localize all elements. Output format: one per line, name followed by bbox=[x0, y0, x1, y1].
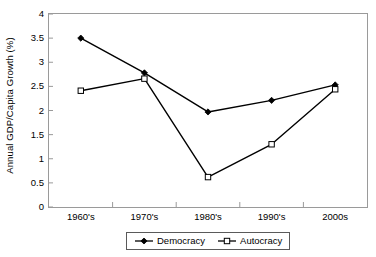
legend-entry-democracy[interactable]: Democracy bbox=[134, 236, 205, 246]
y-tick-label: 2 bbox=[18, 106, 44, 116]
y-tick-label: 4 bbox=[18, 9, 44, 19]
marker-democracy bbox=[78, 35, 84, 41]
y-tick-label: 1 bbox=[18, 154, 44, 164]
y-tick-label: 3.5 bbox=[18, 33, 44, 43]
x-tick-label: 1980's bbox=[176, 212, 240, 222]
filled-diamond-icon bbox=[134, 236, 154, 246]
y-tick-label: 3 bbox=[18, 57, 44, 67]
legend-label: Autocracy bbox=[240, 236, 282, 246]
marker-autocracy bbox=[269, 142, 274, 147]
marker-autocracy bbox=[205, 174, 210, 179]
x-tick-label: 2000s bbox=[303, 212, 367, 222]
marker-democracy bbox=[205, 109, 211, 115]
legend-marker bbox=[141, 238, 147, 244]
series-line-autocracy bbox=[81, 79, 335, 177]
y-tick-label: 0 bbox=[18, 202, 44, 212]
marker-autocracy bbox=[142, 76, 147, 81]
marker-autocracy bbox=[333, 87, 338, 92]
marker-democracy bbox=[141, 70, 147, 76]
marker-autocracy bbox=[78, 88, 83, 93]
legend-label: Democracy bbox=[157, 236, 205, 246]
x-tick-label: 1970's bbox=[112, 212, 176, 222]
y-axis-title-text: Annual GDP/Capita Growth (%) bbox=[4, 37, 15, 173]
y-tick-label: 0.5 bbox=[18, 178, 44, 188]
legend-entry-autocracy[interactable]: Autocracy bbox=[217, 236, 282, 246]
chart-legend: DemocracyAutocracy bbox=[126, 232, 290, 250]
plot-area bbox=[48, 13, 368, 208]
series-canvas bbox=[49, 14, 367, 207]
open-square-icon bbox=[217, 236, 237, 246]
y-tick-label: 2.5 bbox=[18, 81, 44, 91]
series-line-democracy bbox=[81, 38, 335, 112]
x-tick-label: 1990's bbox=[240, 212, 304, 222]
marker-democracy bbox=[269, 97, 275, 103]
legend-marker bbox=[224, 238, 229, 243]
x-tick-label: 1960's bbox=[49, 212, 113, 222]
y-tick-label: 1.5 bbox=[18, 130, 44, 140]
line-chart: Annual GDP/Capita Growth (%) 00.511.522.… bbox=[0, 0, 376, 257]
y-axis-tick-labels: 00.511.522.533.54 bbox=[14, 0, 44, 220]
